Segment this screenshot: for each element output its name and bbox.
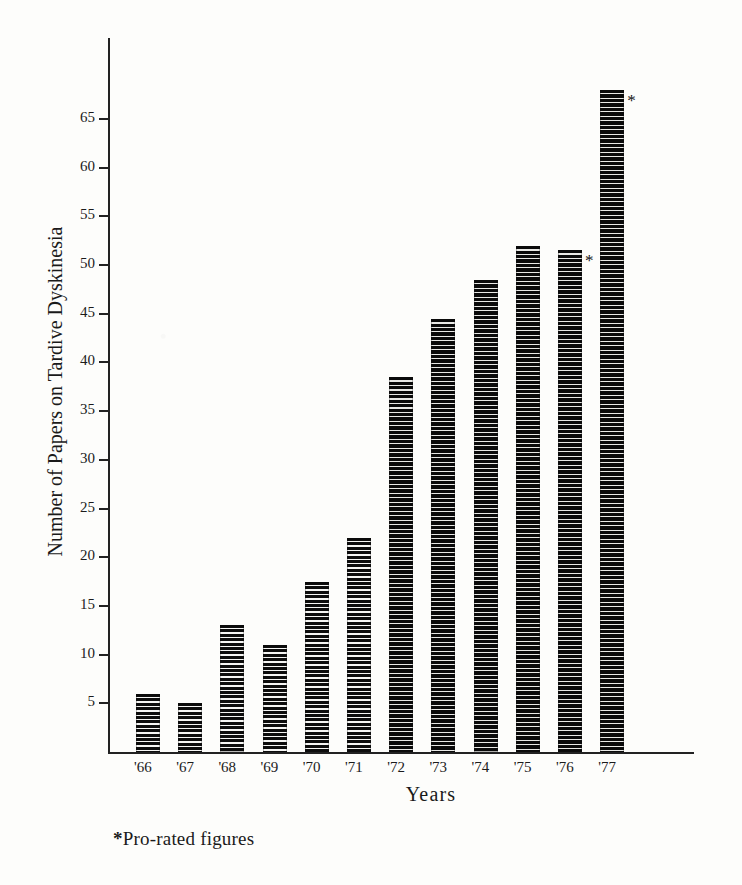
bar-top-edge xyxy=(136,694,160,696)
bar-top-edge xyxy=(305,582,329,584)
x-tick-label-y66: '66 xyxy=(134,758,152,776)
y-tick-label: 30 xyxy=(80,450,95,466)
bar-y71 xyxy=(347,538,371,752)
y-tick-label: 55 xyxy=(80,206,95,222)
y-tick-label: 15 xyxy=(80,596,95,612)
x-tick-label-y67: '67 xyxy=(176,758,194,776)
y-tick-20: 20 xyxy=(99,556,110,558)
y-tick-label: 35 xyxy=(80,401,95,417)
y-tick-label: 20 xyxy=(80,547,95,563)
y-tick-45: 45 xyxy=(99,313,110,315)
y-axis-title: Number of Papers on Tardive Dyskinesia xyxy=(44,157,67,627)
footnote-asterisk: * xyxy=(113,828,123,849)
bar-top-edge xyxy=(389,377,413,379)
y-tick-label: 60 xyxy=(80,158,95,174)
bar-top-edge xyxy=(600,90,624,92)
x-tick-label-y75: '75 xyxy=(514,758,532,776)
bar-top-edge xyxy=(516,246,540,248)
y-tick-25: 25 xyxy=(99,508,110,510)
y-tick-50: 50 xyxy=(99,264,110,266)
y-tick-5: 5 xyxy=(99,702,110,704)
y-tick-label: 50 xyxy=(80,255,95,271)
x-tick-label-y71: '71 xyxy=(345,758,363,776)
x-tick-label-y69: '69 xyxy=(261,758,279,776)
x-axis-title: Years xyxy=(0,783,742,806)
bar-top-edge xyxy=(178,703,202,705)
bar-top-edge xyxy=(558,250,582,252)
y-tick-30: 30 xyxy=(99,459,110,461)
y-tick-label: 25 xyxy=(80,499,95,515)
x-axis-line xyxy=(108,752,694,754)
y-axis-title-text: Number of Papers on Tardive Dyskinesia xyxy=(44,227,66,557)
bar-chart-figure: Number of Papers on Tardive Dyskinesia 5… xyxy=(0,0,742,885)
bar-y74 xyxy=(474,280,498,752)
x-tick-label-y74: '74 xyxy=(472,758,490,776)
bar-y76: * xyxy=(558,250,582,752)
x-tick-label-y72: '72 xyxy=(387,758,405,776)
bar-y69 xyxy=(263,645,287,752)
prorated-asterisk: * xyxy=(627,96,636,106)
y-tick-15: 15 xyxy=(99,605,110,607)
bar-top-edge xyxy=(347,538,371,540)
prorated-asterisk: * xyxy=(585,256,594,266)
x-axis-title-text: Years xyxy=(286,783,457,805)
bar-y73 xyxy=(431,319,455,752)
y-tick-label: 45 xyxy=(80,304,95,320)
x-tick-label-y77: '77 xyxy=(598,758,616,776)
footnote: *Pro-rated figures xyxy=(113,828,254,850)
bar-y70 xyxy=(305,582,329,752)
bar-top-edge xyxy=(474,280,498,282)
bar-top-edge xyxy=(220,625,244,627)
y-tick-label: 5 xyxy=(88,693,96,709)
y-tick-label: 10 xyxy=(80,645,95,661)
x-tick-label-y68: '68 xyxy=(218,758,236,776)
bar-y75 xyxy=(516,246,540,752)
bar-top-edge xyxy=(431,319,455,321)
y-tick-10: 10 xyxy=(99,654,110,656)
y-tick-40: 40 xyxy=(99,361,110,363)
y-tick-35: 35 xyxy=(99,410,110,412)
x-tick-label-y70: '70 xyxy=(303,758,321,776)
bar-y72 xyxy=(389,377,413,752)
footnote-text: Pro-rated figures xyxy=(123,828,255,849)
y-tick-label: 65 xyxy=(80,109,95,125)
x-tick-label-y76: '76 xyxy=(556,758,574,776)
y-tick-65: 65 xyxy=(99,118,110,120)
bar-y66 xyxy=(136,694,160,752)
bar-y68 xyxy=(220,625,244,752)
y-tick-label: 40 xyxy=(80,352,95,368)
x-tick-label-y73: '73 xyxy=(429,758,447,776)
plot-area: 5101520253035404550556065 ** '66'67'68'6… xyxy=(108,38,694,754)
bar-y67 xyxy=(178,703,202,752)
bar-y77: * xyxy=(600,90,624,752)
bar-top-edge xyxy=(263,645,287,647)
y-tick-60: 60 xyxy=(99,167,110,169)
y-axis-line xyxy=(108,38,110,754)
y-tick-55: 55 xyxy=(99,215,110,217)
